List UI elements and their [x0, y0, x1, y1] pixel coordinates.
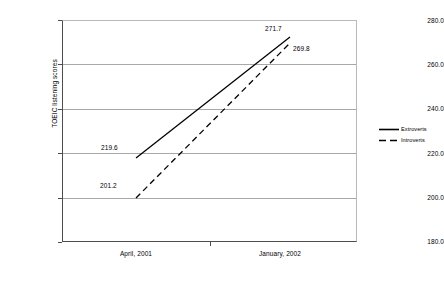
legend-swatch-solid-line-icon — [378, 126, 400, 133]
point-label-extroverts-start: 219.6 — [101, 144, 118, 151]
chart-container: TOEIC listening scores 280.0 260.0 240.0… — [0, 0, 444, 281]
legend-item-extroverts: Extroverts — [378, 124, 440, 135]
point-label-introverts-end: 269.8 — [293, 45, 310, 52]
legend-label-extroverts: Extroverts — [400, 126, 427, 133]
point-label-extroverts-end: 271.7 — [265, 25, 282, 32]
legend-label-introverts: Introverts — [400, 137, 425, 144]
legend: Extroverts Introverts — [378, 124, 440, 146]
legend-item-introverts: Introverts — [378, 135, 440, 146]
point-label-introverts-start: 201.2 — [100, 182, 117, 189]
series-line-introverts — [136, 43, 290, 198]
legend-swatch-dashed-line-icon — [378, 137, 400, 144]
series-line-extroverts — [136, 37, 290, 158]
